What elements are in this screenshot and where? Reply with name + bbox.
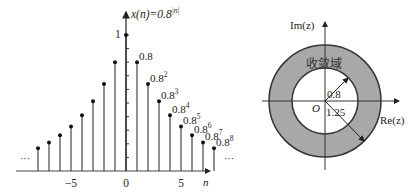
stem-value-label: 0.84 [172,101,190,115]
stem [113,60,117,171]
re-axis-label: Re(z) [380,114,405,127]
y-axis-label-exponent: |n| [172,6,180,15]
stem-marker [47,140,51,144]
roc-diagram: Im(z) Re(z) O 收敛域 0.8 1.25 [262,19,405,170]
stem-plot: 0.80.820.830.840.850.860.870.88 −505 x(n… [16,6,234,189]
stem [124,33,128,171]
stem [47,140,51,171]
ellipsis-right: ··· [224,153,234,164]
stem-marker [113,60,117,64]
stem-marker [124,33,128,37]
x-tick-labels: −505 [65,177,184,189]
outer-radius-label: 1.25 [326,106,346,118]
stem-marker [36,146,40,150]
stem [146,82,150,171]
stem-marker [102,82,106,86]
stem-marker [80,113,84,117]
stem-marker [69,124,73,128]
stem [212,146,216,171]
x-tick-label: 5 [178,177,184,189]
stem [80,113,84,171]
stem [91,99,95,171]
stem-marker [91,99,95,103]
region-label: 收敛域 [306,56,342,71]
stem-value-label: 0.8 [139,50,153,62]
stem [190,133,194,171]
x-axis-label: n [203,176,209,188]
figure-canvas: 0.80.820.830.840.850.860.870.88 −505 x(n… [0,0,413,196]
stem [58,133,62,171]
y-axis-label: x(n)=0.8|n| [130,6,180,21]
stem [102,82,106,171]
origin-label: O [312,102,320,114]
stem-marker [58,133,62,137]
stem [201,140,205,171]
stem-value-label: 0.82 [150,70,168,84]
stem-value-label: 0.83 [161,87,179,101]
x-tick-label: −5 [65,177,77,189]
stem [69,124,73,171]
y-tick-label-1: 1 [115,28,121,40]
im-axis-label: Im(z) [290,19,315,32]
stem [135,60,139,171]
stem [168,113,172,171]
inner-radius-label: 0.8 [327,88,341,100]
stem [157,99,161,171]
ellipsis-left: ··· [20,153,30,164]
stem [179,124,183,171]
x-tick-label: 0 [123,177,129,189]
stem-value-label: 0.88 [216,134,234,148]
stem [36,146,40,171]
stem-value-labels: 0.80.820.830.840.850.860.870.88 [139,50,234,148]
